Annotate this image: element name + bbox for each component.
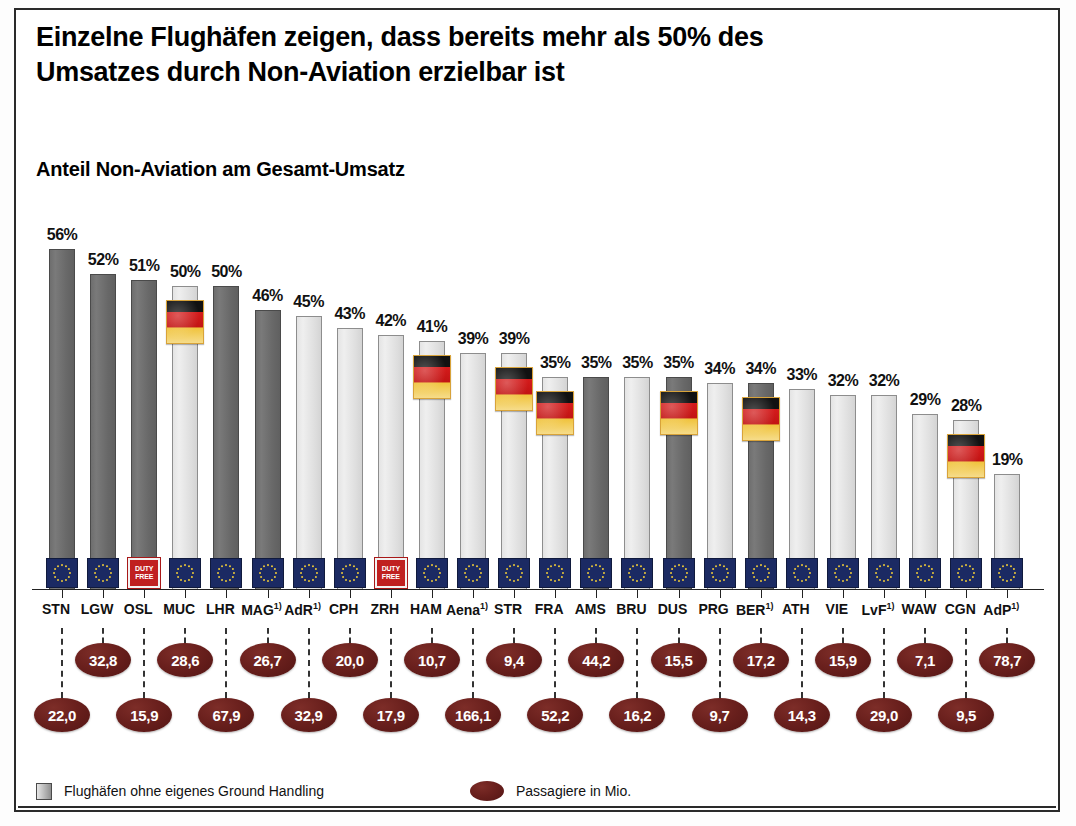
passenger-oval-osl: 15,9 — [116, 698, 172, 732]
duty-free-icon: DUTYFREE — [375, 558, 407, 588]
oval-leader-line — [472, 628, 474, 698]
oval-leader-line — [143, 628, 145, 698]
bar-value-label: 19% — [981, 451, 1033, 469]
passenger-oval-lhr: 67,9 — [198, 698, 254, 732]
x-tick — [679, 589, 680, 598]
passenger-oval-stn: 22,0 — [34, 698, 90, 732]
oval-leader-line — [554, 628, 556, 698]
bar-value-label: 28% — [940, 397, 992, 415]
x-tick — [637, 589, 638, 598]
oval-leader-line — [102, 628, 104, 643]
oval-leader-line — [678, 628, 680, 643]
passenger-oval-waw: 7,1 — [897, 643, 953, 677]
oval-leader-line — [924, 628, 926, 643]
bar-value-label: 32% — [858, 372, 910, 390]
passenger-oval-zrh: 17,9 — [363, 698, 419, 732]
x-tick — [391, 589, 392, 598]
eu-flag-icon — [991, 558, 1023, 588]
eu-flag-icon — [621, 558, 653, 588]
bar-zrh — [378, 335, 404, 591]
bar-column: 35% — [535, 225, 575, 590]
eu-flag-icon — [909, 558, 941, 588]
legend-label-passengers: Passagiere in Mio. — [516, 783, 631, 799]
x-tick — [62, 589, 63, 598]
x-tick — [514, 589, 515, 598]
bar-column: 41% — [412, 225, 452, 590]
passenger-oval-vie: 15,9 — [815, 643, 871, 677]
bar-column: 46% — [248, 225, 288, 590]
passenger-oval-aena: 166,1 — [445, 698, 501, 732]
bar-column: 32% — [864, 225, 904, 590]
german-flag-icon — [495, 367, 533, 411]
x-tick — [843, 589, 844, 598]
bar-column: 52% — [83, 225, 123, 590]
passenger-oval-adr: 32,9 — [281, 698, 337, 732]
x-tick — [350, 589, 351, 598]
passenger-oval-muc: 28,6 — [157, 643, 213, 677]
bar-column: 35% — [659, 225, 699, 590]
bar-value-label: 50% — [200, 263, 252, 281]
oval-leader-line — [308, 628, 310, 698]
legend-item-ground-handling: Flughäfen ohne eigenes Ground Handling — [36, 783, 324, 800]
passenger-oval-mag: 26,7 — [240, 643, 296, 677]
bar-column: 28% — [946, 225, 986, 590]
bar-column: 43% — [330, 225, 370, 590]
eu-flag-icon — [293, 558, 325, 588]
oval-leader-line — [760, 628, 762, 643]
eu-flag-icon — [704, 558, 736, 588]
bar-stn — [49, 249, 75, 590]
passenger-oval-cph: 20,0 — [322, 643, 378, 677]
oval-leader-line — [513, 628, 515, 643]
x-tick — [268, 589, 269, 598]
x-tick — [966, 589, 967, 598]
bar-column: 35% — [617, 225, 657, 590]
bar-column: 29% — [905, 225, 945, 590]
eu-flag-icon — [334, 558, 366, 588]
legend-item-passengers: Passagiere in Mio. — [470, 781, 631, 801]
bar-column: 45% — [289, 225, 329, 590]
oval-leader-line — [390, 628, 392, 698]
passenger-oval-ams: 44,2 — [568, 643, 624, 677]
x-tick — [432, 589, 433, 598]
passenger-oval-str: 9,4 — [486, 643, 542, 677]
bar-cph — [337, 328, 363, 590]
bar-chart-plot: 56%52%51%DUTYFREE50%50%46%45%43%42%DUTYF… — [32, 225, 1044, 590]
bar-column: 39% — [494, 225, 534, 590]
oval-leader-line — [595, 628, 597, 643]
bar-mag — [255, 310, 281, 590]
x-tick — [596, 589, 597, 598]
passenger-oval-lgw: 32,8 — [75, 643, 131, 677]
passenger-oval-bru: 16,2 — [609, 698, 665, 732]
bar-lgw — [90, 274, 116, 590]
eu-flag-icon — [745, 558, 777, 588]
slide-page: Einzelne Flughäfen zeigen, dass bereits … — [0, 0, 1076, 826]
german-flag-icon — [536, 391, 574, 435]
eu-flag-icon — [498, 558, 530, 588]
bar-column: 19% — [987, 225, 1027, 590]
legend-divider — [18, 806, 1056, 808]
bar-column: 34% — [741, 225, 781, 590]
eu-flag-icon — [416, 558, 448, 588]
x-axis-line — [32, 589, 1044, 590]
duty-free-icon: DUTYFREE — [128, 558, 160, 588]
page-title: Einzelne Flughäfen zeigen, dass bereits … — [36, 20, 1006, 89]
x-tick — [925, 589, 926, 598]
bar-column: 50% — [206, 225, 246, 590]
bar-swatch-icon — [36, 783, 52, 800]
passenger-oval-dus: 15,5 — [651, 643, 707, 677]
passenger-oval-fra: 52,2 — [527, 698, 583, 732]
x-tick — [555, 589, 556, 598]
passenger-oval-lvf: 29,0 — [856, 698, 912, 732]
x-tick — [144, 589, 145, 598]
x-tick — [103, 589, 104, 598]
eu-flag-icon — [950, 558, 982, 588]
oval-leader-line — [431, 628, 433, 643]
eu-flag-icon — [457, 558, 489, 588]
german-flag-icon — [660, 391, 698, 435]
x-tick — [1007, 589, 1008, 598]
bar-column: 50% — [165, 225, 205, 590]
oval-leader-line — [349, 628, 351, 643]
eu-flag-icon — [868, 558, 900, 588]
oval-leader-line — [636, 628, 638, 698]
chart-subtitle: Anteil Non-Aviation am Gesamt-Umsatz — [36, 158, 405, 181]
